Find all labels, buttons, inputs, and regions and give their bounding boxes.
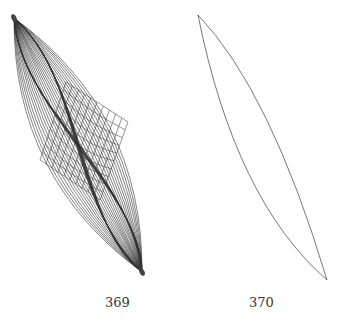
- figure-label-370: 370: [249, 295, 274, 310]
- lens-outline: [198, 15, 327, 280]
- spindle-mesh: [14, 18, 142, 272]
- figures-canvas: [0, 0, 341, 321]
- figure-label-369: 369: [105, 295, 130, 310]
